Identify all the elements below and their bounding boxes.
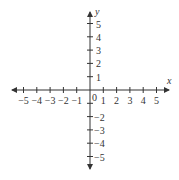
- x-tick-label: 2: [114, 95, 119, 106]
- y-axis-label: y: [94, 6, 100, 17]
- y-tick-label: 3: [96, 45, 101, 56]
- y-tick-label: 2: [96, 58, 101, 69]
- y-tick-label: −5: [94, 152, 105, 163]
- y-tick-label: −4: [94, 138, 105, 149]
- y-tick-label: 1: [96, 72, 101, 83]
- x-tick-label: −1: [71, 95, 82, 106]
- y-tick-label: 5: [96, 19, 101, 30]
- x-tick-label: 1: [101, 95, 106, 106]
- x-tick-label: −5: [18, 95, 29, 106]
- y-tick-label: 4: [96, 32, 101, 43]
- x-tick-label: 3: [127, 95, 132, 106]
- y-tick-label: −2: [94, 112, 105, 123]
- x-tick-label: 5: [154, 95, 159, 106]
- y-tick-label: −3: [94, 125, 105, 136]
- x-axis-label: x: [166, 75, 172, 86]
- coordinate-plane: −5−4−3−2−11234512345−2−3−4−5 x y 0: [0, 0, 179, 180]
- x-tick-label: 4: [141, 95, 146, 106]
- x-tick-label: −3: [45, 95, 56, 106]
- origin-label: 0: [92, 92, 97, 103]
- x-tick-label: −2: [58, 95, 69, 106]
- x-tick-label: −4: [31, 95, 42, 106]
